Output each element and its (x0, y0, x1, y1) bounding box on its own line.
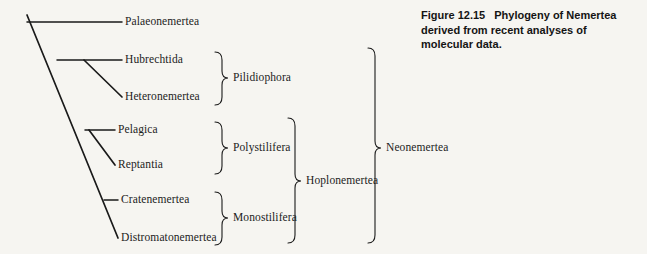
taxon-label-cratenemertea: Cratenemertea (121, 194, 189, 206)
bracket-neonemertea (368, 48, 381, 243)
branch-reptantia (89, 130, 115, 165)
taxon-label-reptantia: Reptantia (118, 159, 163, 171)
clade-label-monostilifera: Monostilifera (233, 212, 297, 224)
taxon-label-pelagica: Pelagica (118, 124, 158, 136)
taxon-label-palaeonemertea: Palaeonemertea (125, 16, 199, 28)
figure-caption: Figure 12.15Phylogeny of Nemertea derive… (421, 8, 639, 52)
caption-number: Figure 12.15 (421, 9, 485, 21)
taxon-label-heteronemertea: Heteronemertea (125, 91, 200, 103)
bracket-polystilifera (215, 122, 228, 174)
tree-backbone (27, 15, 118, 238)
bracket-hoplonemertea (288, 118, 301, 243)
bracket-pilidiophora (215, 52, 228, 105)
clade-label-hoplonemertea: Hoplonemertea (306, 175, 378, 187)
taxon-label-hubrechtida: Hubrechtida (125, 54, 183, 66)
clade-label-pilidiophora: Pilidiophora (233, 72, 291, 84)
clade-label-polystilifera: Polystilifera (233, 142, 291, 154)
branch-heteronemertea (84, 60, 122, 97)
taxon-label-distromatonemertea: Distromatonemertea (121, 232, 217, 244)
clade-label-neonemertea: Neonemertea (386, 142, 448, 154)
figure-container: Palaeonemertea Hubrechtida Heteronemerte… (0, 0, 647, 254)
bracket-monostilifera (215, 192, 228, 245)
